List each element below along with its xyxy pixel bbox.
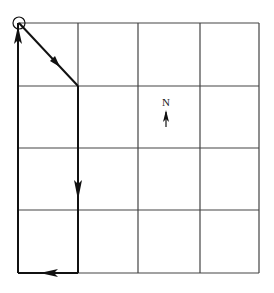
diagram-canvas	[0, 0, 274, 293]
north-arrow-icon	[163, 110, 169, 127]
path-segment-southeast	[19, 23, 78, 86]
direction-arrows	[14, 26, 82, 277]
north-label: N	[162, 96, 170, 108]
grid-path-diagram: N	[0, 0, 274, 293]
